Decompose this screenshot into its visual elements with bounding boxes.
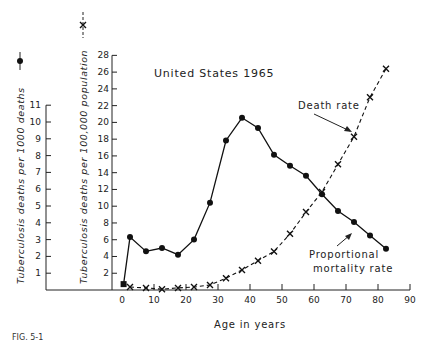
x-tick-label: 50 xyxy=(276,295,288,305)
data-point xyxy=(159,245,165,251)
right-y-tick-label: 12 xyxy=(98,184,109,194)
left-y-tick-label: 3 xyxy=(35,235,41,245)
data-point xyxy=(287,163,293,169)
data-point xyxy=(223,137,229,143)
left-y-tick-label: 11 xyxy=(30,100,41,110)
right-axis-legend-marker xyxy=(80,12,86,38)
data-point xyxy=(367,232,373,238)
data-point xyxy=(175,252,181,258)
data-point xyxy=(239,267,245,273)
left-y-axis-title: Tuberculosis deaths per 1000 deaths xyxy=(15,87,26,284)
data-point xyxy=(239,115,245,121)
dot-marker-icon xyxy=(17,58,23,64)
data-point xyxy=(287,231,293,237)
right-y-tick-label: 10 xyxy=(98,201,110,211)
data-point xyxy=(367,94,373,100)
x-tick-label: 0 xyxy=(119,295,125,305)
data-point xyxy=(127,234,133,240)
data-point xyxy=(191,237,197,243)
data-point xyxy=(383,66,389,72)
data-point xyxy=(303,209,309,215)
right-y-tick-label: 8 xyxy=(103,218,109,228)
data-point xyxy=(335,161,341,167)
data-point xyxy=(351,219,357,225)
right-y-tick-label: 20 xyxy=(98,117,110,127)
proportional-mortality-series xyxy=(121,115,389,287)
left-y-tick-label: 2 xyxy=(35,251,41,261)
proportional-annotation-line1: Proportional xyxy=(309,249,379,260)
left-y-tick-label: 9 xyxy=(35,134,41,144)
right-y-tick-label: 22 xyxy=(98,101,109,111)
right-y-tick-label: 4 xyxy=(103,251,109,261)
left-axis-legend-marker xyxy=(17,52,23,70)
data-point xyxy=(121,281,127,287)
x-tick-label: 10 xyxy=(148,295,160,305)
left-y-tick-label: 10 xyxy=(30,117,42,127)
x-tick-label: 70 xyxy=(340,295,352,305)
right-y-tick-label: 18 xyxy=(98,134,110,144)
right-y-axis-title: Tuberculosis deaths per 100,000 populati… xyxy=(78,50,89,284)
data-point xyxy=(143,248,149,254)
left-y-tick-label: 6 xyxy=(35,184,41,194)
right-y-tick-label: 24 xyxy=(98,84,110,94)
x-tick-label: 80 xyxy=(372,295,384,305)
death-rate-annotation: Death rate xyxy=(298,100,360,111)
left-y-tick-label: 1 xyxy=(35,268,41,278)
figure-caption: FIG. 5-1 xyxy=(12,333,43,342)
data-point xyxy=(271,152,277,158)
right-y-tick-label: 16 xyxy=(98,151,110,161)
right-y-tick-label: 26 xyxy=(98,67,110,77)
x-tick-label: 40 xyxy=(244,295,256,305)
data-point xyxy=(303,173,309,179)
chart: 1234567891011246810121416182022242628010… xyxy=(0,0,428,342)
proportional-annotation-line2: mortality rate xyxy=(313,263,393,274)
data-point xyxy=(351,134,357,140)
data-point xyxy=(223,275,229,281)
x-axis-title: Age in years xyxy=(214,319,286,330)
left-y-tick-label: 4 xyxy=(35,218,41,228)
left-y-tick-label: 8 xyxy=(35,151,41,161)
left-y-tick-label: 7 xyxy=(35,167,41,177)
data-point xyxy=(207,200,213,206)
x-tick-label: 60 xyxy=(308,295,320,305)
data-point xyxy=(383,246,389,252)
data-point xyxy=(271,248,277,254)
x-tick-label: 30 xyxy=(212,295,224,305)
death-rate-arrowhead xyxy=(344,126,352,132)
right-y-tick-label: 2 xyxy=(103,268,109,278)
death-rate-arrow xyxy=(314,114,350,131)
data-point xyxy=(255,258,261,264)
left-y-tick-label: 5 xyxy=(35,201,41,211)
data-point xyxy=(255,125,261,131)
x-tick-label: 20 xyxy=(180,295,192,305)
right-y-tick-label: 6 xyxy=(103,235,109,245)
right-y-tick-label: 28 xyxy=(98,50,110,60)
chart-title: United States 1965 xyxy=(154,67,274,80)
right-y-tick-label: 14 xyxy=(98,168,110,178)
x-tick-label: 90 xyxy=(404,295,416,305)
data-point xyxy=(335,208,341,214)
